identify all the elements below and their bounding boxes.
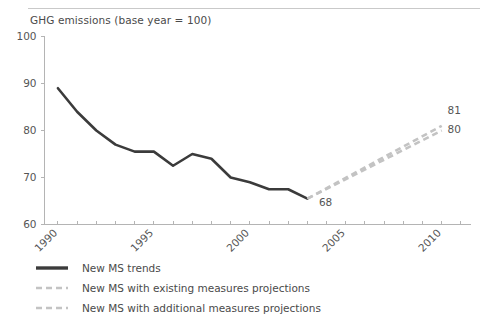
series-line-solid [58,88,307,198]
x-axis: 19901995200020052010 [32,221,471,254]
y-axis-tick-label: 70 [23,171,36,183]
legend-item[interactable]: New MS trends [36,258,466,278]
y-axis-tick-label: 90 [23,77,36,89]
legend-swatch-solid [36,262,68,274]
legend-item[interactable]: New MS with additional measures projecti… [36,298,466,318]
series-line-dashed [307,126,441,199]
data-value-label: 80 [447,123,460,135]
y-axis-tick-label: 60 [23,218,36,230]
data-value-label: 81 [447,104,460,116]
legend-swatch-dashed [36,302,68,314]
chart-legend: New MS trendsNew MS with existing measur… [36,258,466,318]
y-axis-tick-label: 80 [23,124,36,136]
x-axis-tick-label: 1990 [32,226,59,253]
data-value-label: 68 [319,196,332,208]
x-axis-tick-label: 2000 [224,226,251,253]
x-axis-tick-label: 2010 [416,226,443,253]
x-axis-tick-label: 1995 [128,226,155,253]
data-series-group [58,88,442,198]
legend-swatch-dashed [36,282,68,294]
x-axis-tick-label: 2005 [320,226,347,253]
y-axis: 10090807060 [16,30,44,230]
legend-item[interactable]: New MS with existing measures projection… [36,278,466,298]
legend-item-label: New MS with existing measures projection… [82,282,310,294]
y-axis-tick-label: 100 [16,30,36,42]
legend-item-label: New MS with additional measures projecti… [82,302,321,314]
legend-item-label: New MS trends [82,262,161,274]
